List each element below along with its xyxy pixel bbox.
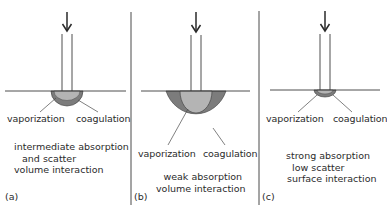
panel-a-coagulation-label: coagulation [76,113,130,124]
down-arrow-icon [63,12,72,31]
down-arrow-icon [321,11,330,31]
panel-a-vaporization-label: vaporization [7,113,65,124]
panel-b-description: weak absorption volume interaction [156,171,246,194]
description-line: strong absorption [286,150,377,162]
description-line: and scatter [22,153,129,165]
down-arrow-icon [192,12,201,32]
panel-a-letter: (a) [5,191,18,202]
description-line: low scatter [292,162,377,174]
panel-c-graphic [270,11,380,112]
panel-c-vaporization-label: vaporization [266,113,324,124]
panel-c-description: strong absorption low scatter surface in… [286,150,377,185]
vaporization-leader [40,98,56,112]
description-line: weak absorption [160,171,246,183]
vaporization-leader [298,95,317,112]
panel-b-graphic [141,12,250,145]
panel-c-coagulation-label: coagulation [333,113,387,124]
panel-b-vaporization-label: vaporization [138,148,196,159]
description-line: volume interaction [14,164,129,176]
coagulation-leader [78,100,98,112]
coagulation-leader [213,128,225,145]
panel-b-letter: (b) [134,191,147,202]
panel-a-description: intermediate absorption and scatter volu… [14,141,129,176]
description-line: volume interaction [156,183,246,195]
coagulation-leader [333,95,352,112]
vaporization-leader [168,109,188,145]
panel-c-letter: (c) [262,191,275,202]
description-line: intermediate absorption [14,141,129,153]
panel-a-graphic [5,12,126,112]
panel-b-coagulation-label: coagulation [203,148,257,159]
description-line: surface interaction [287,173,377,185]
